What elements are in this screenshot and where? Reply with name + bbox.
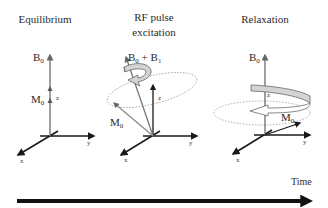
x-axis: [233, 130, 272, 154]
panel-title-rf-line1: RF pulse: [134, 12, 173, 23]
b0-label-sub: 0: [256, 57, 260, 65]
x-axis-label: x: [124, 157, 128, 164]
m0-label-sub: 0: [291, 117, 295, 125]
b0-plus-b1-label: B0 + B1: [128, 52, 161, 65]
x-axis-label: x: [20, 158, 24, 165]
y-axis-label: y: [87, 140, 91, 147]
time-label: Time: [291, 177, 312, 187]
plus-b1-label-main: + B: [139, 51, 158, 63]
m0-label-main: M: [281, 111, 291, 123]
m0-label: M0: [110, 117, 123, 130]
b1-label-sub: 1: [158, 57, 162, 65]
panel-title-equilibrium: Equilibrium: [18, 14, 71, 25]
b0-label: B0: [249, 52, 260, 65]
m0-label: M0: [281, 112, 294, 125]
x-axis-label: x: [236, 157, 240, 164]
y-axis-label: y: [303, 139, 307, 146]
x-axis: [18, 131, 58, 155]
panel-rf-excitation: [104, 57, 200, 155]
panel-equilibrium: [18, 55, 94, 155]
b0-label-sub: 0: [40, 57, 44, 65]
panel-relaxation: [214, 55, 310, 154]
panel-title-rf-line2: excitation: [132, 27, 175, 38]
z-arrow-mark: [48, 98, 53, 103]
m0-label: M0: [31, 94, 44, 107]
m0-label-main: M: [31, 93, 41, 105]
y-axis-label: y: [189, 140, 193, 147]
z-axis-label: z: [56, 95, 59, 102]
z-axis-label: z: [267, 92, 270, 99]
relaxation-ribbon: [251, 85, 310, 103]
panel-title-relaxation: Relaxation: [241, 14, 289, 25]
x-axis: [121, 131, 160, 155]
m0-arrow-mark: [48, 86, 53, 91]
z-axis-label: z: [158, 95, 161, 102]
m0-label-sub: 0: [120, 122, 124, 130]
m0-label-main: M: [110, 116, 120, 128]
m0-label-sub: 0: [41, 99, 45, 107]
b0-label: B0: [33, 52, 44, 65]
precession-ribbon: [124, 64, 151, 86]
